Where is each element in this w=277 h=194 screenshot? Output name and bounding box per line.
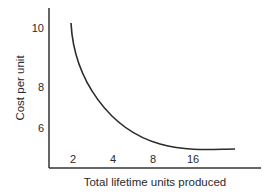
x-tick-4: 4: [110, 153, 116, 165]
y-tick-10: 10: [32, 22, 44, 34]
y-tick-8: 8: [38, 81, 44, 93]
chart: 10 8 6 2 4 8 16 Cost per unit Total life…: [0, 0, 277, 194]
x-axis-label: Total lifetime units produced: [84, 176, 227, 188]
y-axis-label: Cost per unit: [14, 55, 26, 121]
y-tick-6: 6: [38, 122, 44, 134]
x-tick-16: 16: [187, 153, 199, 165]
cost-curve: [71, 23, 235, 150]
x-tick-2: 2: [70, 153, 76, 165]
x-tick-8: 8: [150, 153, 156, 165]
